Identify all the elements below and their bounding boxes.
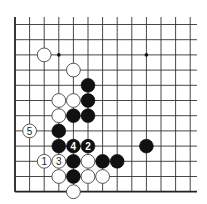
black-stone-disc — [52, 139, 66, 153]
white-stone — [81, 170, 95, 184]
move-number-label: 1 — [41, 156, 47, 167]
white-stone-disc — [67, 63, 81, 77]
white-stone-disc — [37, 48, 51, 62]
white-stone-disc — [96, 170, 110, 184]
black-stone — [140, 139, 154, 153]
black-stone-disc — [67, 154, 81, 168]
white-stone-disc — [81, 170, 95, 184]
black-stone-move-2: 2 — [81, 139, 95, 153]
black-stone — [96, 154, 110, 168]
black-stone-disc — [110, 154, 124, 168]
move-number-label: 3 — [56, 156, 62, 167]
white-stone-move-5: 5 — [23, 124, 37, 138]
white-stone-move-1: 1 — [37, 154, 51, 168]
black-stone-disc — [81, 78, 95, 92]
white-stone-disc — [67, 185, 81, 199]
black-stone — [52, 124, 66, 138]
black-stone — [81, 109, 95, 123]
white-stone-disc — [67, 94, 81, 108]
star-point — [145, 53, 149, 57]
black-stone — [81, 94, 95, 108]
white-stone-disc — [52, 94, 66, 108]
black-stone-disc — [81, 109, 95, 123]
white-stone — [52, 109, 66, 123]
white-stone — [96, 170, 110, 184]
white-stone — [81, 154, 95, 168]
star-point — [57, 53, 61, 57]
black-stone-disc — [52, 124, 66, 138]
black-stone-disc — [67, 109, 81, 123]
black-stone-move-4: 4 — [67, 139, 81, 153]
black-stone-disc — [81, 94, 95, 108]
black-stone — [67, 109, 81, 123]
white-stone-disc — [52, 170, 66, 184]
move-number-label: 2 — [85, 141, 91, 152]
black-stone — [52, 139, 66, 153]
move-number-label: 5 — [27, 126, 33, 137]
white-stone — [37, 48, 51, 62]
black-stone-disc — [140, 139, 154, 153]
black-stone — [67, 154, 81, 168]
white-stone — [67, 63, 81, 77]
white-stone — [67, 94, 81, 108]
black-stone — [81, 78, 95, 92]
white-stone — [52, 94, 66, 108]
black-stone — [110, 154, 124, 168]
white-stone-disc — [81, 154, 95, 168]
white-stone — [52, 170, 66, 184]
black-stone-disc — [96, 154, 110, 168]
white-stone — [67, 185, 81, 199]
white-stone-disc — [52, 109, 66, 123]
move-number-label: 4 — [71, 141, 77, 152]
go-board: 54213 — [0, 0, 207, 204]
white-stone-move-3: 3 — [52, 154, 66, 168]
black-stone-disc — [67, 170, 81, 184]
black-stone — [67, 170, 81, 184]
